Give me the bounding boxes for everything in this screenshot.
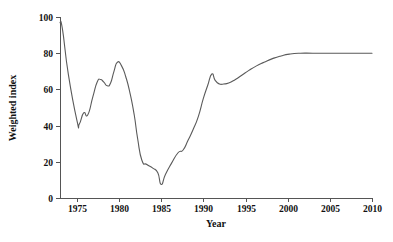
x-tick-label-1995: 1995 bbox=[237, 204, 256, 214]
x-tick-label-2005: 2005 bbox=[321, 204, 340, 214]
x-tick-label-2010: 2010 bbox=[363, 204, 382, 214]
x-tick-label-1990: 1990 bbox=[194, 204, 213, 214]
y-axis-title: Weighted index bbox=[7, 75, 18, 141]
line-chart: 020406080100 197519801985199019952000200… bbox=[0, 0, 393, 242]
x-tick-label-1980: 1980 bbox=[110, 204, 129, 214]
data-series-line bbox=[60, 21, 372, 184]
y-tick-label-40: 40 bbox=[44, 122, 54, 132]
y-axis-tick-labels: 020406080100 bbox=[39, 13, 54, 204]
y-tick-label-60: 60 bbox=[44, 85, 54, 95]
y-tick-label-100: 100 bbox=[39, 13, 54, 23]
y-axis-ticks bbox=[56, 18, 60, 199]
x-tick-label-1975: 1975 bbox=[68, 204, 87, 214]
x-tick-label-2000: 2000 bbox=[279, 204, 298, 214]
x-axis-title: Year bbox=[206, 218, 227, 229]
x-axis-tick-labels: 19751980198519901995200020052010 bbox=[68, 204, 382, 214]
y-tick-label-20: 20 bbox=[44, 158, 54, 168]
y-tick-label-80: 80 bbox=[44, 49, 54, 59]
chart-container: 020406080100 197519801985199019952000200… bbox=[0, 0, 393, 242]
y-tick-label-0: 0 bbox=[48, 194, 53, 204]
x-tick-label-1985: 1985 bbox=[152, 204, 171, 214]
